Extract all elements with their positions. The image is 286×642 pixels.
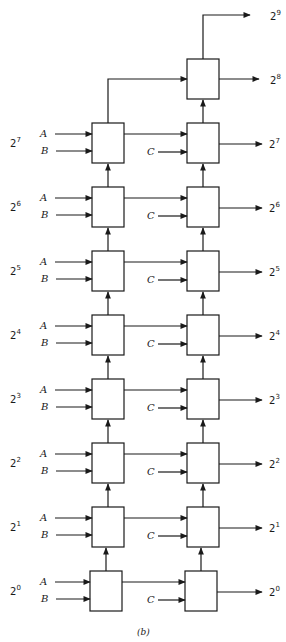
input-a-label: A xyxy=(39,448,47,459)
left-adder-cell xyxy=(92,507,124,547)
input-c-label: C xyxy=(147,402,155,413)
top-adder-cell xyxy=(187,59,219,99)
left-adder-cell xyxy=(92,187,124,227)
right-adder-cell xyxy=(187,251,219,291)
input-b-label: B xyxy=(40,273,48,284)
right-adder-cell xyxy=(185,571,217,611)
left-adder-cell xyxy=(90,571,122,611)
output-label: 27 xyxy=(269,137,280,150)
output-label: 26 xyxy=(269,201,280,214)
input-b-label: B xyxy=(40,401,48,412)
input-c-label: C xyxy=(147,466,155,477)
left-adder-cell xyxy=(92,315,124,355)
output-label-2-8: 28 xyxy=(270,73,281,86)
input-b-label: B xyxy=(40,337,48,348)
right-adder-cell xyxy=(187,315,219,355)
input-c-label: C xyxy=(147,274,155,285)
input-a-label: A xyxy=(39,512,47,523)
input-a-label: A xyxy=(39,384,47,395)
right-adder-cell xyxy=(187,123,219,163)
output-label: 21 xyxy=(269,521,280,534)
input-a-label: A xyxy=(39,576,47,587)
left-carry-to-top-wire xyxy=(108,79,187,123)
adder-array-diagram: 2928ABC2727ABC2626ABC2525ABC2424ABC2323A… xyxy=(0,0,286,642)
row-weight-label: 20 xyxy=(10,584,21,597)
right-adder-cell xyxy=(187,507,219,547)
output-label: 20 xyxy=(269,585,280,598)
input-b-label: B xyxy=(40,145,48,156)
input-b-label: B xyxy=(40,209,48,220)
output-label: 25 xyxy=(269,265,280,278)
row-weight-label: 24 xyxy=(10,328,21,341)
input-c-label: C xyxy=(147,338,155,349)
output-label: 24 xyxy=(269,329,280,342)
row-weight-label: 25 xyxy=(10,264,21,277)
row-weight-label: 23 xyxy=(10,392,21,405)
figure-caption: (b) xyxy=(137,627,150,637)
right-adder-cell xyxy=(187,379,219,419)
input-b-label: B xyxy=(40,465,48,476)
output-label-2-9: 29 xyxy=(270,9,281,22)
row-weight-label: 26 xyxy=(10,200,21,213)
diagram-canvas: 2928ABC2727ABC2626ABC2525ABC2424ABC2323A… xyxy=(0,0,286,642)
right-adder-cell xyxy=(187,187,219,227)
left-adder-cell xyxy=(92,123,124,163)
input-c-label: C xyxy=(147,530,155,541)
left-adder-cell xyxy=(92,443,124,483)
input-c-label: C xyxy=(147,210,155,221)
input-b-label: B xyxy=(40,593,48,604)
carry-out-wire xyxy=(203,15,250,59)
right-adder-cell xyxy=(187,443,219,483)
output-label: 23 xyxy=(269,393,280,406)
input-c-label: C xyxy=(147,146,155,157)
input-c-label: C xyxy=(147,594,155,605)
input-a-label: A xyxy=(39,320,47,331)
left-adder-cell xyxy=(92,251,124,291)
left-adder-cell xyxy=(92,379,124,419)
input-a-label: A xyxy=(39,192,47,203)
row-weight-label: 22 xyxy=(10,456,21,469)
input-a-label: A xyxy=(39,128,47,139)
row-weight-label: 21 xyxy=(10,520,21,533)
output-label: 22 xyxy=(269,457,280,470)
input-a-label: A xyxy=(39,256,47,267)
input-b-label: B xyxy=(40,529,48,540)
row-weight-label: 27 xyxy=(10,136,21,149)
